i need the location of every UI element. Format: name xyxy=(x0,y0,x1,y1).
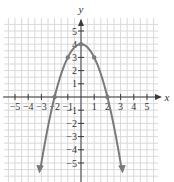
y-tick-label: −4 xyxy=(66,144,77,155)
y-tick-label: −3 xyxy=(66,131,77,142)
y-axis-arrow-icon xyxy=(78,19,84,26)
y-tick-label: −1 xyxy=(66,105,77,116)
y-axis-label: y xyxy=(78,3,84,15)
data-point xyxy=(66,55,70,59)
data-point xyxy=(105,95,109,99)
x-tick-label: 5 xyxy=(145,101,150,112)
data-point xyxy=(79,42,83,46)
x-tick-label: −4 xyxy=(23,101,34,112)
parabola-chart: −5−4−3−2−11234554321−1−2−3−4−5 xy xyxy=(0,0,174,182)
y-tick-label: 2 xyxy=(72,65,77,76)
chart-canvas: −5−4−3−2−11234554321−1−2−3−4−5 xy xyxy=(0,0,174,182)
y-tick-label: −5 xyxy=(66,158,77,169)
y-tick-label: 1 xyxy=(72,78,77,89)
data-point xyxy=(92,55,96,59)
x-tick-label: 4 xyxy=(131,101,136,112)
x-tick-label: 3 xyxy=(118,101,123,112)
data-point xyxy=(52,95,56,99)
y-tick-label: 5 xyxy=(72,26,77,37)
y-tick-label: 3 xyxy=(72,52,77,63)
x-tick-label: 1 xyxy=(92,101,97,112)
x-tick-label: −3 xyxy=(36,101,47,112)
x-axis-arrow-icon xyxy=(155,94,162,100)
y-tick-label: −2 xyxy=(66,118,77,129)
x-tick-label: −5 xyxy=(10,101,21,112)
x-axis-label: x xyxy=(164,91,170,103)
